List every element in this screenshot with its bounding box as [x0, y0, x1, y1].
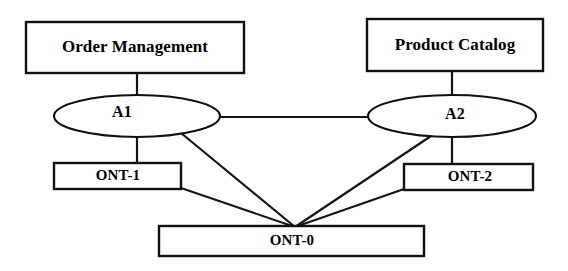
a1-label: A1	[112, 103, 132, 120]
edge-ont-2-to-ont-0	[295, 189, 404, 227]
ont-1-label: ONT-1	[96, 167, 141, 183]
ont-2-label: ONT-2	[448, 168, 493, 184]
node-ont-2[interactable]: ONT-2	[404, 164, 533, 190]
edge-a1-to-ont-0	[181, 133, 295, 227]
order-management-label: Order Management	[62, 37, 208, 56]
ont-0-label: ONT-0	[270, 232, 315, 248]
node-ont-1[interactable]: ONT-1	[54, 163, 181, 189]
diagram-container: Order Management Product Catalog A1 A2 O…	[0, 0, 568, 271]
node-product-catalog[interactable]: Product Catalog	[367, 19, 543, 71]
edge-layer	[137, 71, 452, 227]
node-order-management[interactable]: Order Management	[26, 22, 244, 73]
product-catalog-label: Product Catalog	[395, 35, 516, 54]
a2-label: A2	[445, 105, 465, 122]
node-link-diagram: Order Management Product Catalog A1 A2 O…	[0, 0, 568, 271]
node-a2[interactable]: A2	[368, 95, 536, 137]
node-a1[interactable]: A1	[54, 95, 220, 137]
edge-ont-1-to-ont-0	[181, 188, 295, 227]
a1-ellipse[interactable]	[54, 95, 220, 137]
node-ont-0[interactable]: ONT-0	[159, 226, 424, 256]
